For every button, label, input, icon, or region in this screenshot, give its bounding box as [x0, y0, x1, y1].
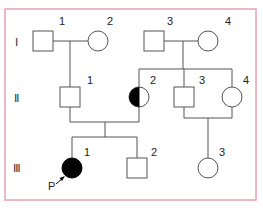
- individual-III3-female-circle: [198, 158, 218, 178]
- individual-III2-male-square: [127, 158, 147, 178]
- individual-II1-male-square: [60, 87, 80, 107]
- generation-label-III: Ⅲ: [13, 162, 21, 174]
- individual-I2-number: 2: [107, 15, 113, 27]
- individual-II2-number: 2: [150, 74, 156, 86]
- proband-label: P: [48, 180, 55, 192]
- individual-II1-number: 1: [87, 74, 93, 86]
- individual-I3-number: 3: [167, 15, 173, 27]
- individual-II3-number: 3: [199, 74, 205, 86]
- individual-III1-number: 1: [84, 146, 90, 158]
- generation-label-II: Ⅱ: [14, 92, 19, 104]
- individual-III3-number: 3: [219, 146, 225, 158]
- individual-II2-female-half-filled: [129, 87, 149, 107]
- individual-I4-number: 4: [225, 15, 231, 27]
- pedigree-chart: Ⅰ Ⅱ Ⅲ 1 2 3 4 1: [0, 0, 263, 209]
- individual-I2-female-circle: [88, 31, 108, 51]
- individual-II3-male-square: [174, 87, 194, 107]
- individual-III2-number: 2: [151, 146, 157, 158]
- individual-III1-female-affected: [62, 158, 82, 178]
- generation-label-I: Ⅰ: [15, 36, 18, 48]
- individual-II4-female-circle: [222, 87, 242, 107]
- individual-I1-male-square: [33, 31, 53, 51]
- individual-I3-male-square: [144, 31, 164, 51]
- individual-II4-number: 4: [243, 74, 249, 86]
- individual-I4-female-circle: [198, 31, 218, 51]
- proband-arrow-icon: [56, 176, 65, 184]
- individual-I1-number: 1: [59, 15, 65, 27]
